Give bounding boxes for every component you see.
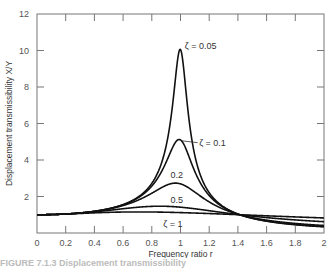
y-tick-label: 6 [24,119,29,129]
x-tick-label: 1.6 [260,238,273,248]
x-tick-label: 1.4 [232,238,245,248]
label-zeta-0.05: ζ = 0.05 [185,41,217,51]
figure-caption: FIGURE 7.1.3 Displacement transmissibili… [0,258,186,268]
label-leader-0.1 [182,141,198,143]
transmissibility-chart: 00.20.40.60.811.21.41.61.8224681012Frequ… [0,0,335,258]
x-tick-label: 1.8 [289,238,302,248]
x-tick-label: 1 [178,238,183,248]
x-tick-label: 0.4 [88,238,101,248]
label-zeta-0.5: 0.5 [170,195,183,205]
label-zeta-0.2: 0.2 [170,170,183,180]
curve-zeta-1 [37,212,324,218]
label-zeta-0.1: ζ = 0.1 [199,138,226,148]
y-tick-label: 12 [19,9,29,19]
x-tick-label: 1.2 [203,238,216,248]
y-axis-title: Displacement transmissibility X/Y [4,61,14,187]
y-tick-label: 4 [24,155,29,165]
y-tick-label: 2 [24,192,29,202]
x-tick-label: 0 [34,238,39,248]
x-axis-title: Frequency ratio r [148,249,212,258]
x-tick-label: 0.8 [146,238,159,248]
y-tick-label: 10 [19,46,29,56]
y-tick-label: 8 [24,82,29,92]
x-tick-label: 2 [321,238,326,248]
x-tick-label: 0.2 [59,238,72,248]
x-tick-label: 0.6 [117,238,130,248]
label-zeta-1: ζ = 1 [163,219,182,229]
